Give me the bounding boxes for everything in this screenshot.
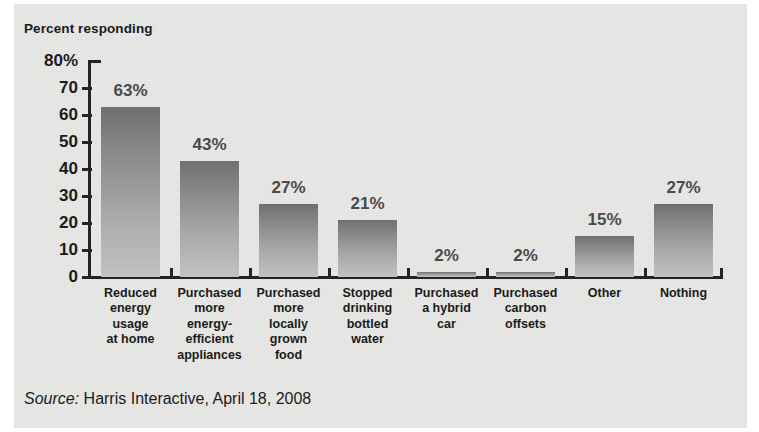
x-axis-tick bbox=[249, 268, 252, 277]
y-axis-tick bbox=[82, 195, 92, 198]
x-axis-tick bbox=[486, 268, 489, 277]
bar-chart-plot: 80%706050403020100 63%43%27%21%2%2%15%27… bbox=[0, 0, 759, 432]
y-axis-tick-label: 0 bbox=[0, 268, 78, 285]
bar-value-label: 2% bbox=[481, 247, 570, 264]
bar-value-label: 27% bbox=[639, 179, 728, 196]
scan-bleed-bottom bbox=[0, 428, 759, 432]
y-axis-tick bbox=[82, 168, 92, 171]
x-axis-tick bbox=[565, 268, 568, 277]
bar[interactable] bbox=[101, 107, 160, 277]
bar[interactable] bbox=[575, 236, 634, 277]
y-axis-tick-label: 70 bbox=[0, 79, 78, 96]
x-axis-tick bbox=[328, 268, 331, 277]
chart-page: Percent responding 80%706050403020100 63… bbox=[0, 0, 759, 432]
bar-value-label: 27% bbox=[244, 179, 333, 196]
y-axis-tick bbox=[82, 141, 92, 144]
source-note: Source: Harris Interactive, April 18, 20… bbox=[24, 390, 311, 408]
bar-value-label: 15% bbox=[560, 211, 649, 228]
y-axis-tick-label: 60 bbox=[0, 106, 78, 123]
bar-value-label: 63% bbox=[86, 82, 175, 99]
y-axis-tick-label: 30 bbox=[0, 187, 78, 204]
x-axis-tick bbox=[644, 268, 647, 277]
y-axis-tick-label: 10 bbox=[0, 241, 78, 258]
scan-bleed-top bbox=[0, 0, 759, 4]
y-axis-tick-label: 80% bbox=[0, 52, 78, 69]
y-axis-tick-label: 20 bbox=[0, 214, 78, 231]
x-axis-category-label: Nothing bbox=[637, 286, 730, 301]
x-axis-tick bbox=[170, 268, 173, 277]
y-axis-tick bbox=[82, 114, 92, 117]
bar[interactable] bbox=[259, 204, 318, 277]
y-axis-tick-label: 50 bbox=[0, 133, 78, 150]
source-prefix: Source: bbox=[24, 390, 79, 407]
bar-value-label: 21% bbox=[323, 195, 412, 212]
y-axis-tick bbox=[82, 276, 92, 279]
y-axis-tick bbox=[82, 222, 92, 225]
bar-value-label: 2% bbox=[402, 247, 491, 264]
x-axis-tick bbox=[407, 268, 410, 277]
bar-value-label: 43% bbox=[165, 136, 254, 153]
bar[interactable] bbox=[338, 220, 397, 277]
bar[interactable] bbox=[496, 272, 555, 277]
bar[interactable] bbox=[417, 272, 476, 277]
x-axis-right-cap bbox=[720, 268, 723, 279]
y-axis-top-cap bbox=[88, 60, 101, 63]
y-axis-tick-label: 40 bbox=[0, 160, 78, 177]
y-axis-tick bbox=[82, 249, 92, 252]
source-text: Harris Interactive, April 18, 2008 bbox=[79, 390, 311, 407]
bar[interactable] bbox=[654, 204, 713, 277]
bar[interactable] bbox=[180, 161, 239, 277]
